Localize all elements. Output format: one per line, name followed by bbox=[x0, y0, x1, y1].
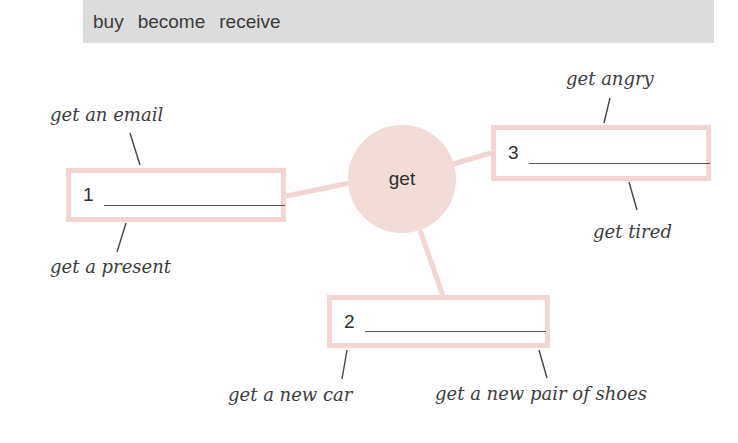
tick-line bbox=[130, 133, 140, 165]
answer-input-2[interactable] bbox=[365, 311, 546, 332]
hub-circle: get bbox=[348, 125, 456, 233]
hub-link-3 bbox=[450, 153, 491, 165]
collocation-label: get a present bbox=[50, 256, 171, 277]
hub-link-1 bbox=[286, 183, 350, 196]
collocation-label: get a new pair of shoes bbox=[435, 383, 647, 404]
answer-input-1[interactable] bbox=[104, 185, 285, 206]
collocation-label: get an email bbox=[50, 104, 163, 125]
answer-number: 1 bbox=[83, 184, 94, 206]
hub-label: get bbox=[389, 168, 415, 190]
tick-line bbox=[342, 350, 347, 379]
tick-line bbox=[117, 223, 126, 252]
answer-box-1: 1 bbox=[66, 168, 286, 222]
hub-link-2 bbox=[420, 230, 443, 296]
answer-input-3[interactable] bbox=[529, 143, 710, 164]
tick-line bbox=[539, 350, 547, 378]
collocation-label: get tired bbox=[593, 221, 672, 242]
tick-line bbox=[604, 98, 610, 123]
tick-line bbox=[629, 182, 637, 210]
collocation-label: get angry bbox=[566, 68, 654, 89]
answer-box-2: 2 bbox=[327, 295, 550, 348]
answer-number: 2 bbox=[344, 311, 355, 333]
answer-box-3: 3 bbox=[491, 125, 711, 181]
collocation-label: get a new car bbox=[228, 384, 352, 405]
answer-number: 3 bbox=[508, 142, 519, 164]
